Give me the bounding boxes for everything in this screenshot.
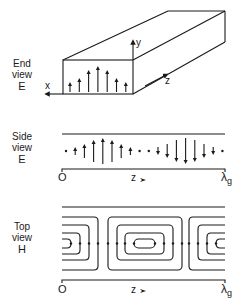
top-z-arrow-icon (140, 289, 146, 293)
side-view-field-arrows (65, 138, 224, 164)
z-axis-arrow (145, 75, 166, 86)
waveguide-box (63, 11, 225, 94)
h-field-loops (62, 217, 225, 270)
top-bottom-axis (62, 280, 225, 283)
side-z-arrow-icon (140, 178, 146, 182)
end-view-field-arrows (68, 66, 128, 92)
side-bottom-axis (62, 169, 225, 172)
h-field-center-dots (70, 242, 217, 244)
waveguide-diagram (0, 0, 244, 306)
